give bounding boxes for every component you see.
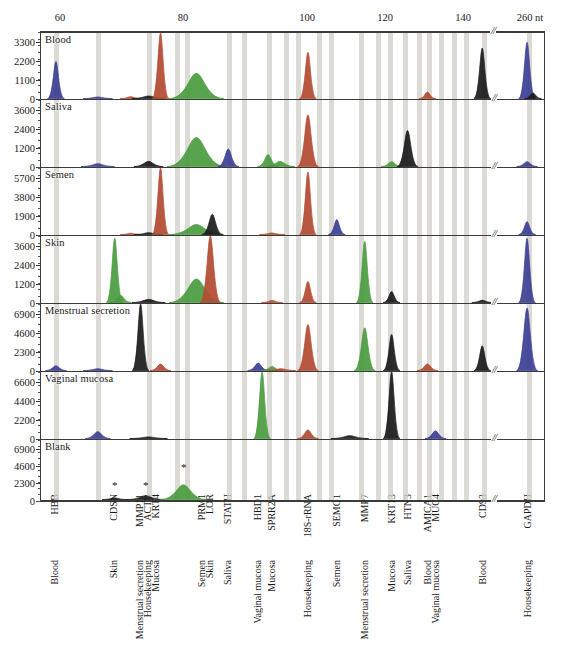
peak <box>328 220 345 235</box>
fluid-label: Skin <box>205 560 215 578</box>
y-axis-semen: 5700380019000 <box>0 168 40 236</box>
peak <box>417 364 438 371</box>
y-axis-blank: 6900460023000 <box>0 440 40 502</box>
fluid-label: Blood <box>50 560 60 584</box>
axis-break-icon: // <box>491 432 497 443</box>
panel-menstrual-secretion: Menstrual secretion// <box>40 304 545 372</box>
trace-curves <box>41 440 544 501</box>
peak <box>474 346 491 371</box>
asterisk-marker: * <box>181 462 187 473</box>
peak <box>300 52 317 98</box>
fluid-label: Mucosa <box>387 560 397 592</box>
peak <box>300 172 317 235</box>
panel-title: Blood <box>45 34 71 45</box>
baseline <box>41 439 544 440</box>
panel-title: Semen <box>45 169 74 180</box>
y-tick-label: 2400 <box>14 123 35 134</box>
peak <box>519 222 536 235</box>
peak <box>519 238 536 302</box>
peak <box>383 334 400 370</box>
fluid-label: Semen <box>332 560 342 587</box>
fluid-label: Mucosa <box>267 560 277 592</box>
axis-break-icon: // <box>491 92 497 103</box>
baseline <box>41 99 544 100</box>
y-tick-label: 0 <box>30 495 35 506</box>
y-tick-label: 6900 <box>14 443 35 454</box>
y-tick-label: 6600 <box>14 376 35 387</box>
x-tick-label: 100 <box>299 12 315 23</box>
peak <box>297 325 318 371</box>
y-tick-label: 4600 <box>14 461 35 472</box>
peak <box>160 485 206 500</box>
trace-curves <box>41 100 544 168</box>
fluid-label: Saliva <box>403 560 413 585</box>
y-tick-label: 1200 <box>14 142 35 153</box>
peak <box>517 308 538 370</box>
peak <box>48 62 65 99</box>
y-tick-label: 1200 <box>14 278 35 289</box>
peak <box>354 328 375 371</box>
fluid-label: Skin <box>109 560 119 578</box>
x-tick-label: 80 <box>178 12 189 23</box>
y-axis-saliva: 3600240012000 <box>0 100 40 168</box>
peak <box>152 168 169 235</box>
trace-curves <box>41 236 544 304</box>
x-tick-label: 60 <box>55 12 66 23</box>
y-tick-label: 2300 <box>14 478 35 489</box>
peak <box>167 138 226 167</box>
fluid-label: Blood <box>478 560 488 584</box>
trace-curves <box>41 168 544 236</box>
y-tick-label: 5700 <box>14 172 35 183</box>
baseline <box>41 500 544 501</box>
peak <box>297 115 318 167</box>
y-tick-label: 1100 <box>14 74 35 85</box>
y-axis-vaginal-mucosa: 6600440022000 <box>0 372 40 440</box>
peak <box>300 281 317 302</box>
axis-break-icon: // <box>491 364 497 375</box>
peak <box>106 238 123 302</box>
trace-curves <box>41 372 544 440</box>
peak <box>383 372 400 439</box>
fluid-label: Vaginal mucosa <box>253 560 263 624</box>
peak <box>297 430 318 439</box>
y-tick-label: 2400 <box>14 259 35 270</box>
trace-curves <box>41 33 544 100</box>
panel-saliva: Saliva// <box>40 100 545 168</box>
baseline <box>41 167 544 168</box>
y-tick-label: 3300 <box>14 37 35 48</box>
panel-title: Menstrual secretion <box>45 305 130 316</box>
panel-blank: Blank// <box>40 440 545 502</box>
peak <box>519 42 536 98</box>
peak <box>132 304 149 371</box>
peak <box>425 431 446 439</box>
peak <box>218 149 239 167</box>
fluid-label-row: BloodSkinMenstrual secretionHousekeeping… <box>40 560 545 647</box>
y-axis-menstrual-secretion: 6900460023000 <box>0 304 40 372</box>
x-tick-label: 260 nt <box>517 12 544 23</box>
panel-title: Blank <box>45 441 71 452</box>
baseline <box>41 235 544 236</box>
peak <box>397 131 418 167</box>
x-tick-label: 120 <box>377 12 393 23</box>
panel-skin: Skin// <box>40 236 545 304</box>
y-tick-label: 1900 <box>14 210 35 221</box>
y-tick-label: 4600 <box>14 327 35 338</box>
baseline <box>41 303 544 304</box>
peak <box>150 364 171 370</box>
asterisk-marker: * <box>143 480 149 491</box>
y-tick-label: 3600 <box>14 241 35 252</box>
y-tick-label: 3600 <box>14 105 35 116</box>
panel-semen: Semen// <box>40 168 545 236</box>
fluid-label: Housekeeping <box>523 560 533 617</box>
peak <box>152 33 169 99</box>
y-axis-skin: 3600240012000 <box>0 236 40 304</box>
panel-stack: Blood//Saliva//Semen//Skin//Menstrual se… <box>40 32 545 502</box>
y-axis-blood: 3300220011000 <box>0 32 40 100</box>
y-tick-label: 2300 <box>14 346 35 357</box>
peak <box>169 73 223 98</box>
axis-break-icon: // <box>491 493 497 504</box>
axis-break-icon: // <box>491 296 497 307</box>
peak <box>248 363 269 370</box>
y-tick-label: 2200 <box>14 55 35 66</box>
peak <box>419 92 436 99</box>
